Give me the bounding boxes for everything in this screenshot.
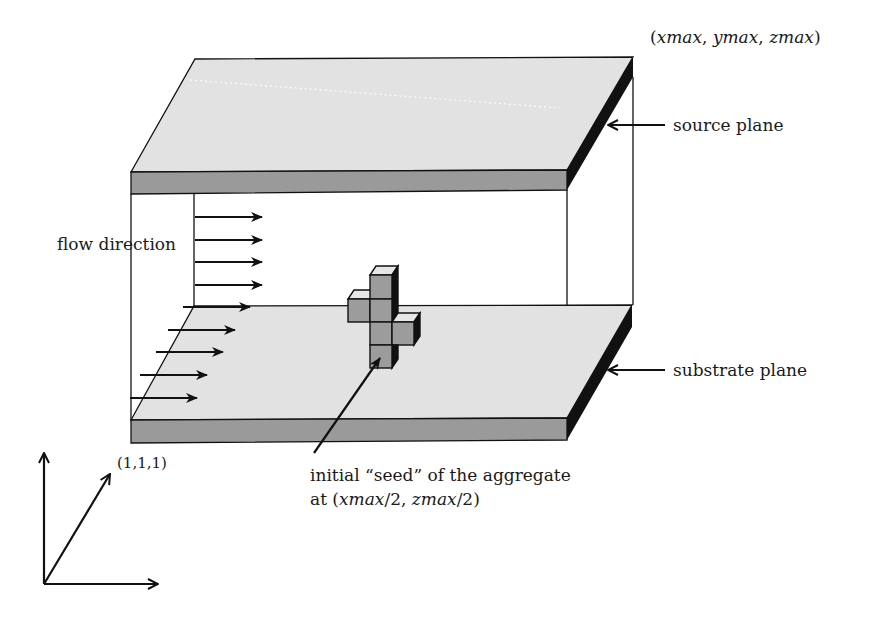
coordinate-axes <box>44 453 158 584</box>
flow-direction-label: flow direction <box>57 234 176 254</box>
substrate-plane-front <box>131 418 567 443</box>
cube-front-face <box>370 275 392 299</box>
seed-label-line2: at (xmax/2, zmax/2) <box>310 489 480 509</box>
origin-label: (1,1,1) <box>117 454 167 472</box>
cube-front-face <box>370 299 392 322</box>
source-plane-label: source plane <box>673 115 783 135</box>
seed-label-line1: initial “seed” of the aggregate <box>310 465 571 485</box>
source-plane-top <box>131 57 633 172</box>
corner-max-label: (xmax, ymax, zmax) <box>650 27 821 47</box>
cube-front-face <box>348 299 370 322</box>
simulation-box-diagram: (xmax, ymax, zmax) source plane substrat… <box>0 0 874 632</box>
cube-front-face <box>370 322 392 345</box>
substrate-plane-label: substrate plane <box>673 360 807 380</box>
source-plane-front <box>131 170 567 194</box>
source-plane <box>131 57 633 194</box>
axis-diagonal-arrow <box>44 474 110 584</box>
cube-front-face <box>392 322 414 345</box>
cube-front-face <box>370 345 392 368</box>
